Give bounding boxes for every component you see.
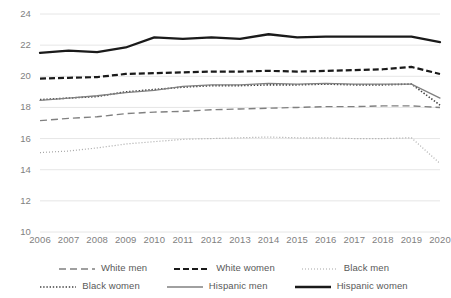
x-tick-label: 2007 [58,234,80,246]
series-line-white-women [40,67,440,79]
legend-item-black-women[interactable]: Black women [39,276,140,294]
x-tick-label: 2012 [201,234,223,246]
plot-svg [0,0,447,245]
legend-swatch-icon [301,261,339,273]
legend-label: Black men [344,262,389,273]
legend-item-white-men[interactable]: White men [58,258,147,276]
y-tick-label: 16 [5,134,31,144]
x-tick-label: 2013 [229,234,251,246]
chart-legend: White menWhite womenBlack men Black wome… [0,258,447,298]
x-tick-label: 2015 [286,234,308,246]
x-tick-label: 2017 [344,234,366,246]
legend-item-hispanic-men[interactable]: Hispanic men [166,276,268,294]
x-tick-label: 2020 [429,234,451,246]
legend-item-hispanic-women[interactable]: Hispanic women [294,276,408,294]
legend-swatch-icon [39,279,77,291]
y-tick-label: 22 [5,40,31,50]
legend-label: White men [101,262,147,273]
series-lines [40,34,440,163]
legend-label: White women [216,262,275,273]
series-line-hispanic-men [40,83,440,100]
legend-label: Hispanic women [337,280,408,291]
legend-row-1: White menWhite womenBlack men [0,258,447,276]
y-tick-label: 14 [5,165,31,175]
x-tick-label: 2011 [172,234,193,246]
y-tick-label: 18 [5,102,31,112]
plot-area: 1012141618202224 [0,0,447,245]
series-line-hispanic-women [40,34,440,53]
x-tick-label: 2018 [372,234,394,246]
x-tick-label: 2016 [315,234,337,246]
legend-swatch-icon [294,279,332,291]
x-tick-label: 2008 [86,234,108,246]
series-line-black-men [40,137,440,163]
legend-swatch-icon [58,261,96,273]
legend-item-black-men[interactable]: Black men [301,258,389,276]
legend-swatch-icon [173,261,211,273]
legend-swatch-icon [166,279,204,291]
legend-item-white-women[interactable]: White women [173,258,275,276]
x-tick-label: 2006 [29,234,51,246]
y-tick-label: 12 [5,196,31,206]
x-tick-label: 2010 [144,234,166,246]
legend-label: Hispanic men [209,280,268,291]
series-line-white-men [40,106,440,121]
legend-label: Black women [82,280,140,291]
x-tick-label: 2009 [115,234,137,246]
y-tick-label: 20 [5,71,31,81]
legend-row-2: Black womenHispanic menHispanic women [0,276,447,294]
x-tick-label: 2014 [258,234,280,246]
gridlines [40,14,440,232]
x-tick-label: 2019 [401,234,423,246]
y-tick-label: 24 [5,9,31,19]
series-line-black-women [40,84,440,105]
x-axis-labels: 2006200720082009201020112012201320142015… [0,232,447,248]
